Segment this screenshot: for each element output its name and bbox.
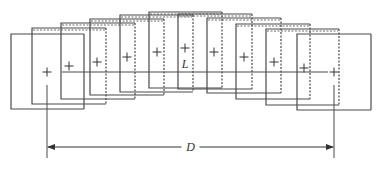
frame [149, 12, 222, 88]
center-cross-icon [93, 58, 102, 67]
center-cross-icon [330, 68, 339, 77]
frame [120, 15, 193, 92]
center-cross-icon [210, 48, 219, 57]
center-cross-icon [123, 53, 132, 62]
center-cross-icon [240, 53, 249, 62]
frame [178, 14, 252, 89]
center-cross-icon [181, 44, 190, 53]
frame [32, 28, 106, 104]
center-cross-icon [153, 48, 162, 57]
distance-label: D [185, 140, 195, 154]
frames-group [11, 12, 371, 110]
length-label: L [181, 57, 189, 71]
center-cross-icon [43, 68, 52, 77]
frame [236, 24, 310, 99]
center-cross-icon [65, 62, 74, 71]
frame-overlap-diagram: L D [0, 0, 377, 171]
center-cross-icon [270, 58, 279, 67]
center-cross-icon [300, 64, 309, 73]
